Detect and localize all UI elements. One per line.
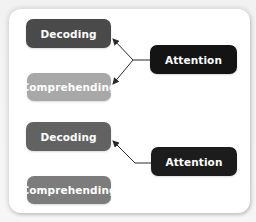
attention-node-1: Attention [150, 45, 237, 74]
comprehending-node-1: Comprehending [27, 73, 111, 101]
decoding-node-1: Decoding [26, 19, 111, 48]
decoding-node-2: Decoding [26, 122, 111, 151]
comprehending-node-2-label: Comprehending [21, 184, 116, 196]
attention-node-1-label: Attention [165, 54, 222, 66]
attention-node-2-label: Attention [166, 156, 223, 168]
decoding-node-2-label: Decoding [40, 131, 96, 143]
attention-node-2: Attention [151, 147, 237, 176]
comprehending-node-2: Comprehending [27, 176, 111, 204]
decoding-node-1-label: Decoding [40, 28, 96, 40]
comprehending-node-1-label: Comprehending [21, 81, 116, 93]
diagram-canvas: Decoding Comprehending Attention Decodin… [0, 0, 256, 222]
